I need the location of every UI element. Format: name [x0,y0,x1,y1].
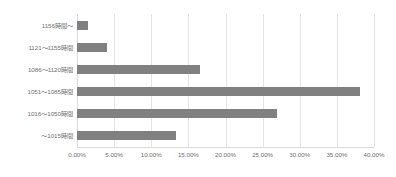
tick-label: 0.00% [68,150,86,160]
category-label: 1121〜1155時間 [0,43,73,52]
value-axis-tick-labels: 0.00%5.00%10.00%15.00%20.00%25.00%30.00%… [77,150,374,164]
tick-label: 25.00% [252,150,273,160]
plot-area [77,14,374,147]
bar [77,131,176,140]
category-label: 1086〜1120時間 [0,65,73,74]
tick-label: 15.00% [178,150,199,160]
tick-label: 5.00% [105,150,123,160]
bar [77,109,277,118]
bar-row [77,87,374,96]
bar [77,87,360,96]
bar [77,21,88,30]
tick-label: 40.00% [364,150,385,160]
bar-row [77,21,374,30]
tick-label: 20.00% [215,150,236,160]
bar-chart: 1156時間〜1121〜1155時間1086〜1120時間1051〜1085時間… [0,0,396,177]
tick-label: 10.00% [141,150,162,160]
bar-row [77,131,374,140]
bar-series [77,14,374,147]
category-label: 1051〜1085時間 [0,87,73,96]
category-axis-labels: 1156時間〜1121〜1155時間1086〜1120時間1051〜1085時間… [0,14,73,147]
bar [77,65,200,74]
bar-row [77,43,374,52]
category-label: 〜1015時間 [0,131,73,140]
value-axis-line [77,147,374,148]
tick-label: 35.00% [326,150,347,160]
bar-row [77,109,374,118]
bar-row [77,65,374,74]
category-label: 1016〜1050時間 [0,109,73,118]
gridline-40.00% [374,14,375,147]
tick-label: 30.00% [289,150,310,160]
category-label: 1156時間〜 [0,21,73,30]
bar [77,43,107,52]
